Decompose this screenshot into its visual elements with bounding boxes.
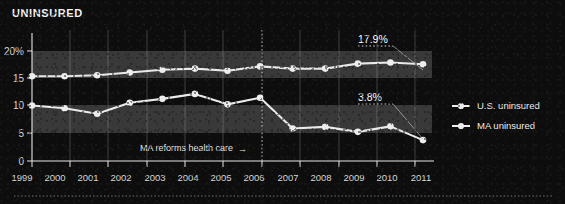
data-point[interactable]	[29, 102, 36, 109]
data-point[interactable]	[94, 72, 101, 79]
data-point[interactable]	[420, 61, 427, 68]
x-tick-label: 2010	[376, 172, 397, 183]
x-tick-label: 2009	[343, 172, 364, 183]
data-point[interactable]	[159, 66, 166, 73]
y-tick-label: 5	[18, 128, 24, 139]
x-tick-label: 2001	[77, 172, 98, 183]
reform-note-label: MA reforms health care	[140, 143, 233, 153]
x-tick-label: 1999	[11, 172, 32, 183]
legend-label: U.S. uninsured	[477, 100, 540, 111]
data-point[interactable]	[126, 99, 133, 106]
data-point[interactable]	[126, 69, 133, 76]
x-tick-label: 2004	[177, 172, 198, 183]
data-point[interactable]	[224, 68, 231, 75]
band-15-20	[32, 51, 432, 78]
legend-item-us-uninsured[interactable]: U.S. uninsured	[452, 100, 540, 111]
x-tick-label: 2007	[277, 172, 298, 183]
data-point[interactable]	[159, 96, 166, 103]
legend: U.S. uninsured MA uninsured	[452, 100, 540, 131]
callout-us-value: 17.9%	[358, 33, 388, 45]
data-point[interactable]	[387, 59, 394, 66]
x-tick-label: 2003	[144, 172, 165, 183]
x-tick-label: 2000	[44, 172, 65, 183]
chart-canvas: UNINSURED	[0, 0, 565, 204]
callout-ma-value: 3.8%	[358, 91, 382, 103]
x-tick-label: 2002	[110, 172, 131, 183]
x-tick-label: 2011	[411, 172, 431, 183]
data-point[interactable]	[257, 63, 264, 70]
data-point[interactable]	[61, 105, 68, 112]
data-point[interactable]	[355, 60, 362, 67]
data-point[interactable]	[192, 65, 199, 72]
legend-swatch-dot-icon	[458, 103, 464, 109]
data-point[interactable]	[420, 137, 427, 144]
data-point[interactable]	[387, 123, 394, 130]
x-tick-label: 2008	[310, 172, 331, 183]
legend-item-ma-uninsured[interactable]: MA uninsured	[452, 120, 535, 131]
legend-swatch-dot-icon	[458, 123, 464, 129]
legend-label: MA uninsured	[477, 120, 535, 131]
data-point[interactable]	[257, 94, 264, 101]
y-tick-label: 15	[13, 73, 25, 84]
data-point[interactable]	[29, 73, 36, 80]
x-tick-label: 2006	[243, 172, 264, 183]
x-tick-label: 2005	[210, 172, 231, 183]
data-point[interactable]	[61, 73, 68, 80]
y-tick-label: 0	[18, 156, 24, 167]
x-ticks	[32, 161, 415, 167]
data-point[interactable]	[322, 65, 329, 72]
data-point[interactable]	[322, 124, 329, 131]
data-point[interactable]	[289, 125, 296, 132]
x-tick-labels: 1999 2000 2001 2002 2003 2004 2005 2006 …	[11, 172, 431, 183]
data-point[interactable]	[224, 101, 231, 108]
data-point[interactable]	[355, 129, 362, 136]
y-tick-labels: 20% 15 10 5 0	[4, 46, 24, 167]
y-tick-label: 20%	[4, 46, 24, 57]
uninsured-line-chart: 20% 15 10 5 0 1999 2000 2001 2002 200	[0, 0, 565, 204]
data-point[interactable]	[94, 110, 101, 117]
data-point[interactable]	[192, 91, 199, 98]
y-tick-label: 10	[13, 100, 25, 111]
data-point[interactable]	[289, 65, 296, 72]
reform-note-arrow-icon: →	[238, 144, 247, 154]
